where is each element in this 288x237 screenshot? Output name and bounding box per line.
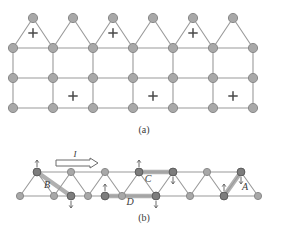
ladder-diagonal: [207, 172, 224, 196]
caption-panel-b: (b): [0, 212, 288, 223]
dark-node-5: [152, 192, 160, 200]
lattice-node: [48, 103, 57, 112]
dark-node-3: [101, 192, 109, 200]
ladder-diagonal: [224, 172, 241, 196]
panel-a-lattice-edges: [13, 18, 253, 108]
plus-marker-5: [149, 92, 157, 100]
lattice-node: [128, 43, 137, 52]
lattice-node: [148, 13, 157, 22]
ladder-diagonal: [105, 172, 122, 196]
ladder-diagonal: [190, 172, 207, 196]
ladder-node: [118, 192, 125, 199]
spin-down-3: [171, 177, 175, 184]
bond-label-D: D: [125, 196, 134, 207]
ladder-node: [186, 192, 193, 199]
lattice-node: [208, 73, 217, 82]
dark-node-6: [169, 168, 177, 176]
lattice-node: [168, 103, 177, 112]
lattice-node: [68, 13, 77, 22]
lattice-node: [248, 43, 257, 52]
ladder-diagonal: [88, 172, 105, 196]
lattice-node: [248, 73, 257, 82]
lattice-edge-diagonal: [53, 18, 73, 48]
dark-node-4: [135, 168, 143, 176]
dark-node-2: [67, 192, 75, 200]
plus-marker-4: [69, 92, 77, 100]
ladder-diagonal: [122, 172, 139, 196]
spin-up-2: [103, 184, 107, 191]
ladder-diagonal: [20, 172, 37, 196]
lattice-node: [88, 73, 97, 82]
dark-node-1: [33, 168, 41, 176]
lattice-edge-diagonal: [213, 18, 233, 48]
spin-up-1: [35, 160, 39, 167]
bond-label-A: A: [241, 181, 249, 192]
lattice-node: [88, 43, 97, 52]
lattice-node: [228, 13, 237, 22]
lattice-node: [48, 73, 57, 82]
lattice-node: [8, 73, 17, 82]
lattice-edge-diagonal: [153, 18, 173, 48]
figure-container: I BCDA (a) (b): [0, 0, 288, 237]
ladder-node: [16, 192, 23, 199]
dark-node-7: [220, 192, 228, 200]
panel-b-current-arrow: I: [56, 149, 98, 168]
ladder-node: [50, 192, 57, 199]
ladder-diagonal: [173, 172, 190, 196]
lattice-node: [208, 103, 217, 112]
lattice-node: [48, 43, 57, 52]
lattice-node: [208, 43, 217, 52]
lattice-node: [28, 13, 37, 22]
current-label: I: [73, 149, 78, 159]
lattice-node: [188, 13, 197, 22]
panel-b-spin-arrows: [35, 160, 243, 208]
current-arrow-icon: [56, 158, 98, 168]
spin-up-3: [137, 160, 141, 167]
lattice-node: [8, 103, 17, 112]
lattice-node: [8, 43, 17, 52]
ladder-node: [203, 168, 210, 175]
dark-node-8: [237, 168, 245, 176]
lattice-node: [108, 13, 117, 22]
lattice-figure-svg: I BCDA: [0, 0, 288, 237]
spin-down-1: [69, 201, 73, 208]
lattice-node: [248, 103, 257, 112]
ladder-node: [84, 192, 91, 199]
ladder-diagonal: [156, 172, 173, 196]
spin-down-2: [154, 201, 158, 208]
ladder-node: [101, 168, 108, 175]
lattice-node: [168, 73, 177, 82]
lattice-edge-diagonal: [73, 18, 93, 48]
ladder-node: [67, 168, 74, 175]
ladder-node: [254, 192, 261, 199]
lattice-node: [88, 103, 97, 112]
lattice-edge-diagonal: [233, 18, 253, 48]
plus-marker-1: [29, 29, 37, 37]
lattice-node: [128, 103, 137, 112]
bond-label-C: C: [145, 173, 152, 184]
lattice-node: [168, 43, 177, 52]
plus-marker-3: [189, 29, 197, 37]
plus-marker-6: [229, 92, 237, 100]
caption-panel-a: (a): [0, 124, 288, 135]
lattice-node: [128, 73, 137, 82]
bond-label-B: B: [44, 179, 50, 190]
plus-marker-2: [109, 29, 117, 37]
spin-up-4: [222, 184, 226, 191]
ladder-diagonal: [71, 172, 88, 196]
lattice-edge-diagonal: [133, 18, 153, 48]
